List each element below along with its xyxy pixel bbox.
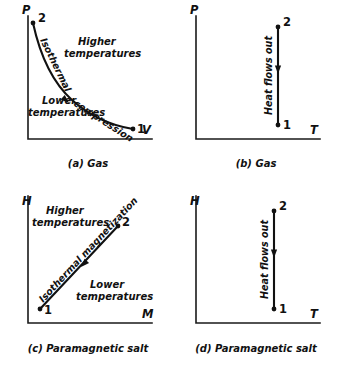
panel-a-process-label-1: Isothermal <box>38 36 74 94</box>
panel-c-y-axis-label: H <box>22 194 32 208</box>
panel-b-axes <box>196 16 320 139</box>
panel-b-direction-arrowhead <box>275 66 281 75</box>
panel-a-point-1-label: 1 <box>137 122 145 136</box>
panel-a-point-2-dot <box>31 21 36 26</box>
panel-c-lower-temps-line1: Lower <box>90 279 125 290</box>
panel-c-point-1-dot <box>38 307 43 312</box>
panel-b-point-1-label: 1 <box>283 118 291 132</box>
figure-canvas: P V 2 1 Isothermal compression Higher te… <box>0 0 338 370</box>
panel-a: P V 2 1 Isothermal compression Higher te… <box>22 3 152 169</box>
panel-c: H M 2 1 Isothermal magnetization Higher … <box>22 194 154 354</box>
panel-b: P T 2 1 Heat flows out (b) Gas <box>190 3 320 169</box>
panel-b-x-axis-label: T <box>310 123 319 137</box>
panel-b-process-label: Heat flows out <box>263 36 274 115</box>
panel-c-higher-temps-line2: temperatures <box>32 217 109 228</box>
panel-a-point-2-label: 2 <box>38 11 46 25</box>
panel-a-point-1-dot <box>131 127 136 132</box>
panel-d-point-1-label: 1 <box>279 302 287 316</box>
panel-b-point-1-dot <box>276 123 281 128</box>
panel-a-process-label-2: compression <box>72 97 136 144</box>
panel-c-x-axis-label: M <box>142 307 154 321</box>
panel-b-point-2-label: 2 <box>283 15 291 29</box>
panel-d-point-2-label: 2 <box>279 199 287 213</box>
panel-d-y-axis-label: H <box>190 194 200 208</box>
panel-d-process-label: Heat flows out <box>259 220 270 299</box>
panel-d: H T 2 1 Heat flows out (d) Paramagnetic … <box>190 194 320 354</box>
panel-c-caption: (c) Paramagnetic salt <box>28 343 150 354</box>
figure-container: P V 2 1 Isothermal compression Higher te… <box>0 0 338 370</box>
panel-a-y-axis-label: P <box>22 3 31 17</box>
panel-a-axes <box>28 16 152 139</box>
panel-d-direction-arrowhead <box>271 250 277 259</box>
panel-d-point-1-dot <box>272 307 277 312</box>
panel-b-point-2-dot <box>276 25 281 30</box>
panel-a-lower-temps-line1: Lower <box>42 95 77 106</box>
panel-d-caption: (d) Paramagnetic salt <box>195 343 318 354</box>
panel-a-higher-temps-line1: Higher <box>78 36 117 47</box>
panel-a-caption: (a) Gas <box>68 158 108 169</box>
panel-b-caption: (b) Gas <box>236 158 277 169</box>
panel-a-lower-temps-line2: temperatures <box>28 107 105 118</box>
panel-d-axes <box>196 196 320 323</box>
panel-b-y-axis-label: P <box>190 3 199 17</box>
panel-d-point-2-dot <box>272 209 277 214</box>
panel-c-point-1-label: 1 <box>44 303 52 317</box>
panel-c-lower-temps-line2: temperatures <box>76 291 153 302</box>
panel-c-higher-temps-line1: Higher <box>46 205 85 216</box>
panel-d-x-axis-label: T <box>310 307 319 321</box>
panel-a-higher-temps-line2: temperatures <box>64 48 141 59</box>
